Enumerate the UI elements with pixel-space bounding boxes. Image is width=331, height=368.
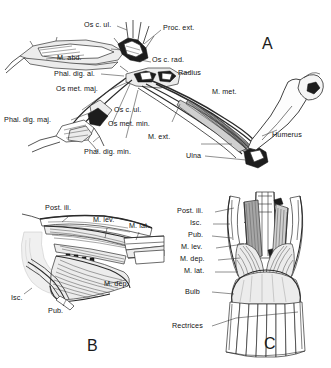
- anatomical-figure: Os c. ul. Proc. ext. M. abd. Os c. rad. …: [0, 0, 331, 368]
- label-c-m-lat: M. lat.: [184, 267, 204, 275]
- label-c-isc: Isc.: [190, 219, 202, 227]
- label-c-m-lev: M. lev.: [181, 243, 202, 251]
- label-c-pub: Pub.: [188, 231, 203, 239]
- label-c-bulb: Bulb: [185, 288, 200, 296]
- label-c-post-ili: Post. ili.: [177, 207, 203, 215]
- panel-c-drawing: [0, 0, 331, 368]
- panel-letter-c: C: [264, 336, 276, 352]
- label-c-rectrices: Rectrices: [172, 322, 203, 330]
- label-c-m-dep: M. dep.: [180, 255, 205, 263]
